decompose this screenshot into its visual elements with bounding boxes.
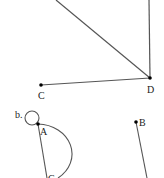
geometry-diagram: C D b. A C B — [0, 0, 164, 178]
segment-b — [136, 122, 147, 178]
label-a: A — [40, 126, 48, 137]
diagonal-line — [56, 0, 150, 78]
vertical-line-d — [149, 0, 150, 78]
point-b — [134, 120, 138, 124]
diagram-svg: C D b. A C B — [0, 0, 164, 178]
label-d: D — [147, 84, 154, 95]
point-c — [39, 83, 43, 87]
label-b: B — [139, 117, 146, 128]
point-d — [148, 76, 152, 80]
part-b-marker: b. — [15, 109, 23, 120]
label-c-b: C — [48, 173, 55, 178]
segment-cd — [41, 78, 150, 85]
label-c: C — [38, 90, 45, 101]
